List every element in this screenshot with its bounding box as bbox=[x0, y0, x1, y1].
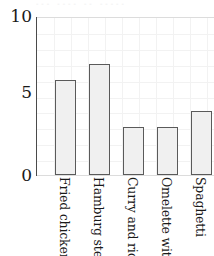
x-tick-label-spaghetti: Spaghetti bbox=[192, 177, 208, 256]
x-tick-label-fried-chicken: Fried chicken bbox=[56, 177, 72, 256]
x-tick-label-hamburg-steak: Hamburg steak bbox=[90, 177, 106, 256]
y-axis-line bbox=[36, 17, 37, 176]
gridline-horizontal bbox=[37, 34, 214, 35]
bar-spaghetti bbox=[191, 111, 212, 175]
x-tick-label-curry-and-rice: Curry and rice bbox=[124, 177, 140, 256]
bar-chart: ‑‑‑ ‑‑‑‑ ‑‑ ‑‑‑‑‑ 10 5 0 Fried chicken bbox=[0, 0, 214, 256]
plot-area bbox=[36, 17, 214, 176]
bar-hamburg-steak bbox=[89, 64, 110, 175]
x-tick-label-omelette-with-rice: Omelette with rice bbox=[158, 177, 174, 256]
y-tick-label-0: 0 bbox=[0, 167, 32, 184]
top-clipped-strip: ‑‑‑ ‑‑‑‑ ‑‑ ‑‑‑‑‑ bbox=[36, 0, 214, 8]
gridline-horizontal bbox=[37, 66, 214, 67]
bar-fried-chicken bbox=[55, 80, 76, 175]
gridline-horizontal bbox=[37, 50, 214, 51]
y-tick-label-5: 5 bbox=[0, 84, 32, 101]
y-tick-label-10: 10 bbox=[0, 8, 32, 25]
bar-omelette-with-rice bbox=[157, 127, 178, 175]
x-axis-labels: Fried chicken Hamburg steak Curry and ri… bbox=[36, 177, 214, 256]
bar-curry-and-rice bbox=[123, 127, 144, 175]
